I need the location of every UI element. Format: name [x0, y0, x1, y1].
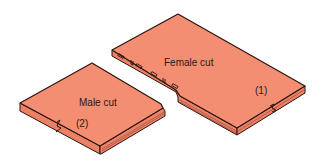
female-number-label: (1)	[255, 85, 267, 96]
female-cut-label: Female cut	[164, 57, 214, 68]
male-number-label: (2)	[76, 118, 88, 129]
tongue-and-groove-diagram: Female cut (1) Male cut (2)	[0, 0, 322, 167]
male-cut-panel: Male cut (2)	[20, 63, 165, 154]
male-cut-label: Male cut	[79, 97, 117, 108]
